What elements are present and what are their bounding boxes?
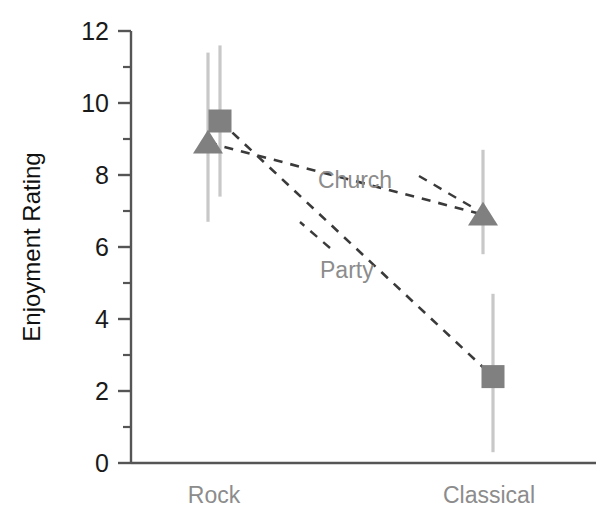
y-axis-title: Enjoyment Rating [18,152,45,341]
marker-party-rock [209,110,232,133]
x-axis-category-rock: Rock [188,482,241,508]
y-axis-tick-label-8: 8 [95,161,109,189]
x-axis-category-classical: Classical [443,482,535,508]
y-axis-tick-labels: 121086420 [81,17,109,477]
connector-line-party [220,121,493,377]
series-label-party: Party [320,257,374,283]
series-label-church: Church [318,167,392,193]
leader-church [419,176,472,207]
y-axis-major-ticks [118,31,131,463]
chart-container: 121086420 Church Party Rock Classical En… [0,0,610,527]
leader-party [300,222,330,248]
marker-church-classical [468,202,498,226]
y-axis-tick-label-6: 6 [95,233,109,261]
chart-svg: 121086420 Church Party Rock Classical En… [0,0,610,527]
y-axis-tick-label-10: 10 [81,89,109,117]
y-axis-tick-label-4: 4 [95,305,109,333]
y-axis-tick-label-12: 12 [81,17,109,45]
marker-party-classical [482,365,505,388]
series-connector-lines [208,121,493,377]
data-point-markers [193,110,505,389]
y-axis-tick-label-0: 0 [95,449,109,477]
error-bars-group [208,45,493,452]
y-axis-tick-label-2: 2 [95,377,109,405]
